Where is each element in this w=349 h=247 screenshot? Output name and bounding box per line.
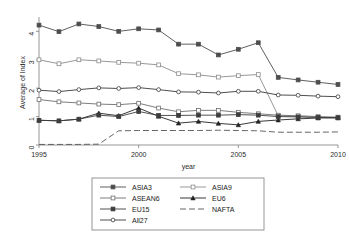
y-axis-title: Average of Index	[19, 56, 27, 109]
data-point-marker	[37, 88, 41, 92]
data-point-marker	[77, 22, 81, 26]
data-point-marker	[111, 185, 115, 189]
data-point-marker	[117, 60, 121, 64]
data-point-marker	[137, 101, 141, 105]
legend-item-label: EU6	[212, 195, 226, 202]
data-point-marker	[157, 63, 161, 67]
x-tick-label: 2010	[330, 151, 346, 158]
x-tick-label: 2005	[231, 151, 247, 158]
data-point-marker	[77, 101, 81, 105]
data-point-marker	[137, 110, 141, 114]
data-point-marker	[191, 185, 195, 189]
data-point-marker	[97, 113, 101, 117]
data-point-marker	[256, 73, 260, 77]
data-point-marker	[97, 86, 101, 90]
data-point-marker	[197, 90, 201, 94]
data-point-marker	[336, 83, 340, 87]
series-all27	[37, 86, 340, 99]
data-point-marker	[57, 100, 61, 104]
data-point-marker	[336, 116, 340, 120]
data-point-marker	[57, 62, 61, 66]
data-point-marker	[157, 88, 161, 92]
series-line-asia3	[39, 24, 338, 85]
data-point-marker	[117, 115, 121, 119]
data-point-marker	[217, 53, 221, 57]
data-point-marker	[276, 93, 280, 97]
data-point-marker	[316, 80, 320, 84]
data-point-marker	[316, 116, 320, 120]
series-line-asean6	[39, 100, 338, 118]
data-point-marker	[77, 117, 81, 121]
data-point-marker	[316, 94, 320, 98]
data-point-marker	[137, 61, 141, 65]
data-point-marker	[296, 93, 300, 97]
data-point-marker	[37, 58, 41, 62]
data-point-marker	[217, 108, 221, 112]
y-tick-label: 4	[28, 32, 35, 36]
data-point-marker	[57, 119, 61, 123]
data-point-marker	[177, 42, 181, 46]
data-point-marker	[236, 74, 240, 78]
data-point-marker	[137, 86, 141, 90]
data-point-marker	[137, 27, 141, 31]
series-nafta	[39, 130, 338, 144]
data-point-marker	[77, 58, 81, 62]
data-point-marker	[217, 75, 221, 79]
data-point-marker	[276, 75, 280, 79]
legend-item-label: ASEAN6	[132, 195, 160, 202]
data-point-marker	[217, 113, 221, 117]
data-point-marker	[97, 102, 101, 106]
data-point-marker	[57, 30, 61, 34]
series-asean6	[37, 98, 340, 119]
x-axis-title: year	[182, 163, 196, 171]
legend-item-label: EU15	[132, 206, 150, 213]
data-point-marker	[236, 47, 240, 51]
chart-figure: 012341995200020052010Average of Indexyea…	[0, 0, 349, 247]
data-point-marker	[111, 207, 115, 211]
data-point-marker	[57, 90, 61, 94]
legend-item-label: ASIA3	[132, 184, 152, 191]
series-line-nafta	[39, 130, 338, 144]
data-point-marker	[217, 91, 221, 95]
legend: ASIA3ASIA9ASEAN6EU6EU15NAFTAAll27	[92, 178, 264, 230]
data-point-marker	[177, 72, 181, 76]
legend-item-label: NAFTA	[212, 206, 235, 213]
data-point-marker	[117, 87, 121, 91]
data-point-marker	[157, 106, 161, 110]
data-point-marker	[197, 42, 201, 46]
series-line-all27	[39, 88, 338, 97]
data-point-marker	[197, 73, 201, 77]
x-tick-label: 1995	[31, 151, 47, 158]
y-tick-label: 1	[28, 117, 35, 121]
data-point-marker	[296, 115, 300, 119]
data-point-marker	[157, 28, 161, 32]
series-group	[37, 22, 340, 144]
x-tick-label: 2000	[131, 151, 147, 158]
data-point-marker	[256, 41, 260, 45]
legend-item-label: All27	[132, 217, 148, 224]
data-point-marker	[177, 110, 181, 114]
data-point-marker	[256, 113, 260, 117]
data-point-marker	[197, 108, 201, 112]
data-point-marker	[336, 95, 340, 99]
data-point-marker	[256, 89, 260, 93]
data-point-marker	[97, 59, 101, 63]
legend-box	[92, 178, 264, 230]
data-point-marker	[111, 196, 115, 200]
data-point-marker	[197, 113, 201, 117]
data-point-marker	[236, 113, 240, 117]
line-chart: 012341995200020052010Average of Indexyea…	[0, 0, 349, 247]
data-point-marker	[97, 25, 101, 29]
series-asia3	[37, 22, 340, 86]
data-point-marker	[37, 118, 41, 122]
y-tick-label: 3	[28, 60, 35, 64]
y-tick-label: 0	[28, 145, 35, 149]
data-point-marker	[177, 90, 181, 94]
data-point-marker	[276, 115, 280, 119]
data-point-marker	[296, 78, 300, 82]
y-tick-label: 2	[28, 89, 35, 93]
data-point-marker	[177, 114, 181, 118]
data-point-marker	[157, 114, 161, 118]
legend-item-label: ASIA9	[212, 184, 232, 191]
data-point-marker	[117, 103, 121, 107]
